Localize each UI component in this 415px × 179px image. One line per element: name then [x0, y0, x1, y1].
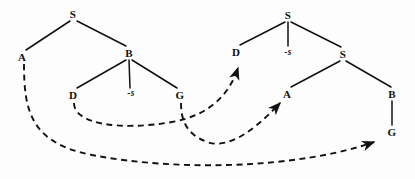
branch-R-S2-to-R-A [291, 61, 340, 87]
node-left-A: A [18, 52, 26, 63]
branch-L-B-to-L-D [77, 60, 126, 88]
branch-L-S-to-L-A [26, 21, 70, 50]
right-tree-branches [240, 22, 392, 125]
dashed-arrow-left-A-to-right-G [24, 64, 374, 165]
branch-R-S1-to-R-D [240, 22, 285, 45]
branch-L-B-to-L-G [132, 60, 177, 88]
node-left-trace: -s [127, 89, 134, 99]
node-left-G: G [176, 90, 185, 101]
left-tree-branches [26, 21, 177, 88]
branch-L-B-to-L-trace [129, 60, 130, 88]
node-right-S-top: S [285, 10, 291, 21]
node-left-S: S [70, 9, 76, 20]
node-right-A: A [283, 89, 291, 100]
branch-R-S2-to-R-B [346, 61, 391, 87]
tree-correspondence-figure: S A B D -s G S D -s S A B G [0, 0, 415, 179]
node-right-G: G [388, 127, 397, 138]
node-right-trace: -s [284, 48, 291, 58]
node-left-B: B [125, 48, 133, 59]
dashed-arrow-left-G-to-right-A [181, 103, 280, 144]
branch-R-S1-to-R-S2 [291, 22, 341, 47]
node-left-D: D [69, 90, 77, 101]
node-right-D: D [232, 47, 240, 58]
correspondence-arrows [24, 64, 374, 165]
node-right-S-lower: S [340, 49, 346, 60]
node-right-B: B [388, 89, 396, 100]
branch-L-S-to-L-B [77, 21, 126, 46]
dashed-arrow-left-D-to-right-D [74, 68, 238, 126]
figure-canvas [0, 0, 415, 179]
